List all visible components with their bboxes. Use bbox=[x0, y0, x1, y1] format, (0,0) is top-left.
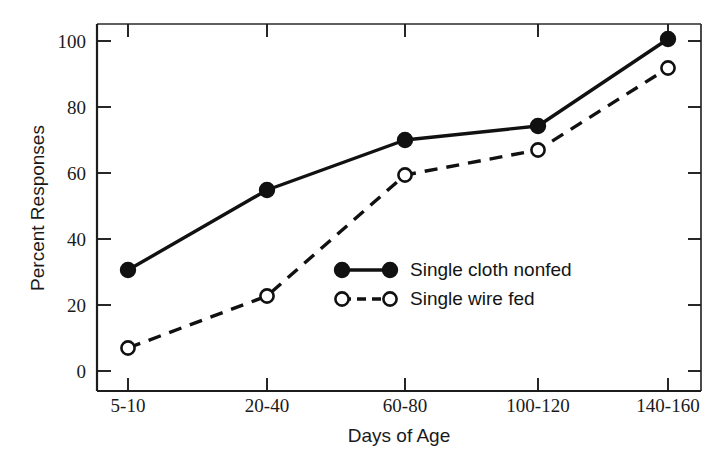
legend-item-single-wire-fed: Single wire fed bbox=[335, 288, 534, 309]
y-tick-label-20: 20 bbox=[67, 295, 86, 316]
data-point-filled-0 bbox=[121, 263, 136, 278]
chart-figure: 0 20 40 60 80 100 5-10 20-40 60-80 100-1… bbox=[0, 0, 724, 456]
legend-item-single-cloth-nonfed: Single cloth nonfed bbox=[335, 259, 572, 280]
data-point-filled-1 bbox=[260, 183, 275, 198]
x-tick-label-3: 100-120 bbox=[506, 395, 569, 416]
x-tick-marks bbox=[128, 378, 668, 391]
data-point-open-2 bbox=[398, 168, 411, 181]
y-tick-marks-right bbox=[688, 41, 701, 371]
y-tick-label-80: 80 bbox=[67, 97, 86, 118]
y-tick-label-60: 60 bbox=[67, 163, 86, 184]
legend-marker-open-left bbox=[335, 292, 348, 305]
y-tick-label-100: 100 bbox=[58, 31, 87, 52]
data-point-filled-2 bbox=[398, 133, 413, 148]
legend-label-0: Single cloth nonfed bbox=[410, 259, 572, 280]
x-tick-label-1: 20-40 bbox=[245, 395, 289, 416]
series-single-cloth-nonfed bbox=[121, 32, 676, 278]
y-tick-label-0: 0 bbox=[77, 361, 87, 382]
line-chart: 0 20 40 60 80 100 5-10 20-40 60-80 100-1… bbox=[0, 0, 724, 456]
series-line-dashed bbox=[128, 68, 668, 348]
x-axis-title: Days of Age bbox=[348, 425, 450, 446]
y-axis-title: Percent Responses bbox=[27, 125, 48, 291]
x-tick-label-2: 60-80 bbox=[383, 395, 427, 416]
y-tick-label-40: 40 bbox=[67, 229, 86, 250]
y-tick-marks bbox=[97, 41, 111, 371]
data-point-open-4 bbox=[661, 61, 674, 74]
legend-marker-open-right bbox=[383, 292, 396, 305]
data-point-filled-4 bbox=[661, 32, 676, 47]
series-single-wire-fed bbox=[121, 61, 674, 354]
x-tick-marks-top bbox=[128, 24, 668, 37]
data-point-open-3 bbox=[531, 143, 544, 156]
x-tick-label-0: 5-10 bbox=[111, 395, 146, 416]
data-point-open-1 bbox=[260, 289, 273, 302]
y-tick-labels: 0 20 40 60 80 100 bbox=[58, 31, 87, 382]
legend-label-1: Single wire fed bbox=[410, 288, 535, 309]
series-line-solid bbox=[128, 39, 668, 270]
chart-legend: Single cloth nonfed Single wire fed bbox=[335, 259, 572, 309]
legend-marker-filled-left bbox=[335, 263, 350, 278]
legend-marker-filled-right bbox=[383, 263, 398, 278]
data-point-open-0 bbox=[121, 341, 134, 354]
x-tick-labels: 5-10 20-40 60-80 100-120 140-160 bbox=[111, 395, 700, 416]
data-point-filled-3 bbox=[531, 119, 546, 134]
x-tick-label-4: 140-160 bbox=[636, 395, 699, 416]
